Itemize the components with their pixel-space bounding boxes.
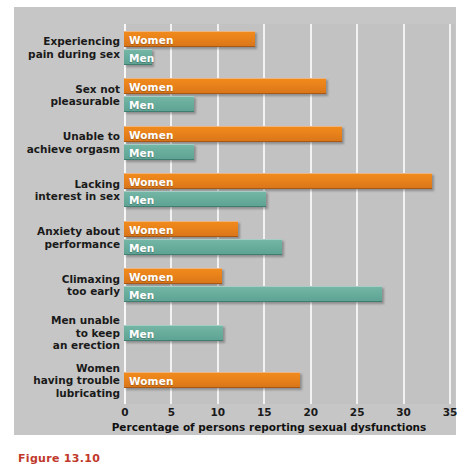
- category-label-wrap: Unable to achieve orgasm: [14, 119, 120, 167]
- plot-area: WomenMenWomenMenWomenMenWomenMenWomenMen…: [124, 24, 455, 404]
- bar-group: Women: [124, 357, 455, 405]
- x-axis-title: Percentage of persons reporting sexual d…: [104, 421, 434, 434]
- bar-label: Men: [129, 98, 154, 112]
- bar-group: WomenMen: [124, 119, 455, 167]
- bar-women: Women: [124, 221, 238, 237]
- bar-group: WomenMen: [124, 214, 455, 262]
- bar-men: Men: [124, 191, 266, 207]
- x-tick-10: 10: [203, 406, 233, 418]
- category-label: Lacking interest in sex: [16, 178, 120, 203]
- bar-label: Men: [129, 288, 154, 302]
- category-label-wrap: Experiencing pain during sex: [14, 24, 120, 72]
- category-label: Sex not pleasurable: [16, 83, 120, 108]
- category-label-wrap: Sex not pleasurable: [14, 72, 120, 120]
- bar-men: Men: [124, 286, 382, 302]
- bar-label: Women: [129, 128, 173, 142]
- bar-label: Men: [129, 51, 154, 65]
- bar-women: Women: [124, 372, 300, 388]
- category-label: Experiencing pain during sex: [16, 35, 120, 60]
- bar-group: WomenMen: [124, 24, 455, 72]
- bar-label: Men: [129, 146, 154, 160]
- figure-caption: Figure 13.10: [18, 452, 100, 468]
- bar-label: Men: [129, 241, 154, 255]
- bar-label: Women: [129, 270, 173, 284]
- category-label-wrap: Anxiety about performance: [14, 214, 120, 262]
- x-tick-15: 15: [249, 406, 279, 418]
- bar-women: Women: [124, 78, 326, 94]
- category-label: Climaxing too early: [16, 273, 120, 298]
- category-label: Unable to achieve orgasm: [16, 130, 120, 155]
- bar-women: Women: [124, 173, 432, 189]
- bar-group: Men: [124, 309, 455, 357]
- bar-men: Men: [124, 49, 152, 65]
- bar-women: Women: [124, 31, 255, 47]
- x-tick-0: 0: [110, 406, 140, 418]
- bar-label: Men: [129, 193, 154, 207]
- bar-men: Men: [124, 144, 194, 160]
- bar-label: Women: [129, 175, 173, 189]
- x-tick-20: 20: [296, 406, 326, 418]
- bar-label: Women: [129, 223, 173, 237]
- x-tick-5: 5: [156, 406, 186, 418]
- bar-women: Women: [124, 126, 342, 142]
- bar-men: Men: [124, 325, 223, 341]
- bar-label: Women: [129, 33, 173, 47]
- category-label-wrap: Climaxing too early: [14, 262, 120, 310]
- x-tick-35: 35: [435, 406, 463, 418]
- bar-men: Men: [124, 96, 194, 112]
- category-label-wrap: Women having trouble lubricating: [14, 357, 120, 405]
- bar-women: Women: [124, 268, 222, 284]
- category-label: Anxiety about performance: [16, 225, 120, 250]
- figure-container: WomenMenWomenMenWomenMenWomenMenWomenMen…: [0, 0, 463, 469]
- bar-label: Men: [129, 327, 154, 341]
- bar-group: WomenMen: [124, 262, 455, 310]
- category-label-wrap: Lacking interest in sex: [14, 167, 120, 215]
- chart-panel: WomenMenWomenMenWomenMenWomenMenWomenMen…: [14, 7, 456, 435]
- bar-label: Women: [129, 80, 173, 94]
- bar-group: WomenMen: [124, 167, 455, 215]
- category-label: Men unable to keep an erection: [16, 314, 120, 352]
- bar-men: Men: [124, 239, 282, 255]
- category-label-wrap: Men unable to keep an erection: [14, 309, 120, 357]
- x-tick-25: 25: [342, 406, 372, 418]
- bar-label: Women: [129, 374, 173, 388]
- category-label: Women having trouble lubricating: [16, 362, 120, 400]
- x-tick-30: 30: [389, 406, 419, 418]
- bar-group: WomenMen: [124, 72, 455, 120]
